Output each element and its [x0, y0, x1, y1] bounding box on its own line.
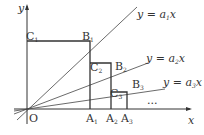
geometry-diagram: y x O C1 C2 C3 B1 B2 B3 A1 A2 A3 ... y =… — [0, 0, 204, 135]
line-a2-label: y = a2x — [145, 52, 186, 65]
origin-label: O — [29, 112, 38, 125]
point-b1-label: B1 — [82, 30, 94, 43]
line-a3-label: y = a3x — [162, 76, 203, 89]
y-axis-arrow-icon — [25, 4, 29, 10]
line-a1-label: y = a1x — [136, 8, 177, 21]
x-axis-label: x — [188, 114, 195, 127]
square-1 — [27, 41, 90, 109]
point-a3-label: A3 — [120, 112, 133, 125]
ellipsis: ... — [147, 94, 158, 107]
point-b2-label: B2 — [115, 60, 127, 73]
point-c3-label: C3 — [110, 87, 122, 100]
point-a1-label: A1 — [85, 112, 98, 125]
y-axis-label: y — [17, 2, 25, 15]
x-axis-arrow-icon — [186, 107, 192, 111]
point-a2-label: A2 — [105, 112, 118, 125]
point-c1-label: C1 — [26, 30, 38, 43]
point-b3-label: B3 — [132, 78, 144, 91]
line-a2 — [14, 63, 148, 114]
